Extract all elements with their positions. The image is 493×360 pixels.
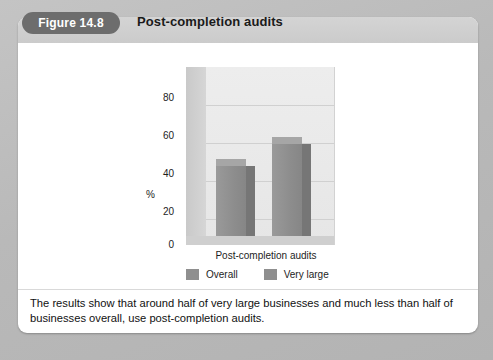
caption-divider (18, 289, 478, 290)
figure-title: Post-completion audits (137, 14, 283, 29)
figure-number-label: Figure 14.8 (38, 16, 104, 30)
plot-3d-box (186, 59, 334, 245)
legend-item-overall: Overall (186, 269, 238, 280)
bar-overall (216, 166, 246, 236)
x-axis-label: Post-completion audits (186, 250, 346, 261)
chart: % 80 60 40 20 0 (18, 43, 478, 289)
bar-very-large (272, 144, 302, 236)
plot-floor (186, 236, 334, 245)
figure-caption: The results show that around half of ver… (30, 296, 468, 326)
gridline-80 (206, 105, 334, 106)
y-axis-label: % (146, 189, 155, 200)
legend-label-very-large: Very large (284, 269, 329, 280)
bar-overall-top (216, 159, 246, 166)
y-tick-0: 0 (152, 239, 174, 250)
y-tick-80: 80 (152, 92, 174, 103)
figure-number-badge: Figure 14.8 (22, 12, 120, 34)
plot-area (186, 59, 334, 245)
bar-very-large-side (302, 144, 311, 236)
chart-legend: Overall Very large (186, 269, 366, 280)
y-tick-40: 40 (152, 168, 174, 179)
legend-label-overall: Overall (206, 269, 238, 280)
bar-very-large-top (272, 137, 302, 144)
bar-overall-side (246, 166, 255, 236)
figure-screenshot: Figure 14.8 Post-completion audits % 80 … (0, 0, 493, 360)
legend-item-very-large: Very large (264, 269, 329, 280)
bar-very-large-front (272, 144, 302, 236)
gridline-60 (206, 143, 334, 144)
y-tick-20: 20 (152, 206, 174, 217)
legend-swatch-very-large (264, 269, 277, 280)
legend-swatch-overall (186, 269, 199, 280)
plot-left-wall (186, 67, 206, 245)
bar-overall-front (216, 166, 246, 236)
y-tick-60: 60 (152, 130, 174, 141)
